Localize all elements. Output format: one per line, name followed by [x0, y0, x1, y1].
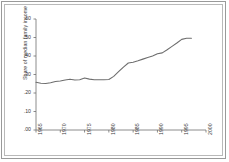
- y-tick-label: .60: [15, 16, 31, 21]
- x-tick-label: 2000: [208, 123, 213, 135]
- line-chart-figure: [0, 0, 229, 162]
- x-tick-label: 1965: [38, 123, 43, 135]
- y-tick-label: .40: [15, 53, 31, 58]
- y-tick-label: .10: [15, 109, 31, 114]
- x-tick-label: 1990: [159, 123, 164, 135]
- y-tick-label: .00: [15, 127, 31, 132]
- y-tick-label: .50: [15, 35, 31, 40]
- x-tick-label: 1970: [62, 123, 67, 135]
- data-series-line: [36, 38, 191, 83]
- y-tick-label: .20: [15, 90, 31, 95]
- x-tick-label: 1995: [184, 123, 189, 135]
- chart-screenshot: Share of median family income .00.10.20.…: [0, 0, 229, 162]
- y-tick-label: .30: [15, 72, 31, 77]
- x-tick-label: 1985: [135, 123, 140, 135]
- x-tick-label: 1980: [111, 123, 116, 135]
- x-tick-label: 1975: [87, 123, 92, 135]
